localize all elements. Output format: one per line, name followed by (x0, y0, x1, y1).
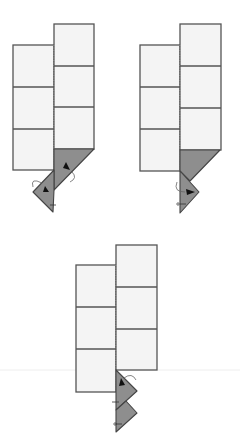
left-column-panel (140, 45, 180, 171)
step-1-figure: Fold the bottom corner down and tuck (tw… (13, 24, 94, 212)
folded-flap (180, 150, 220, 181)
right-column-panel (116, 245, 157, 370)
step-2-figure: Fold the small triangle flap to the righ… (140, 24, 221, 213)
right-column-panel (54, 24, 94, 149)
right-column-panel (180, 24, 221, 150)
pivot-dot (177, 203, 179, 205)
folding-diagram: Fold the bottom corner down and tuck (tw… (0, 0, 240, 442)
left-column-panel (13, 45, 54, 170)
folded-flap (54, 149, 94, 190)
step-3-figure: Two triangular flaps pointing right (76, 245, 157, 432)
left-column-panel (76, 265, 116, 392)
